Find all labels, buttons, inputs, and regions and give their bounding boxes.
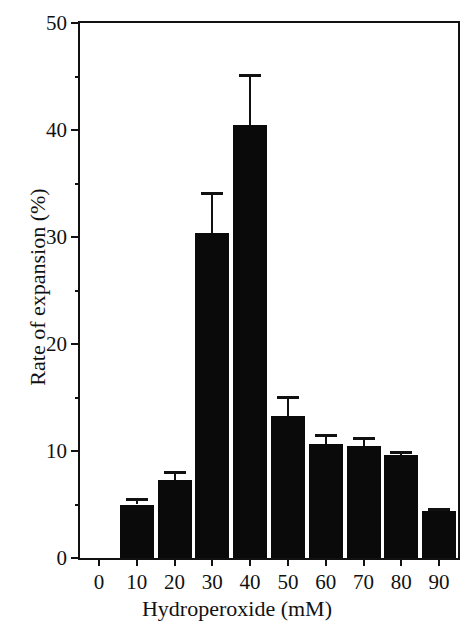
error-bar-cap (315, 434, 337, 437)
x-axis-tick (287, 558, 289, 566)
y-axis-tick-minor (75, 183, 80, 185)
bar-group (309, 23, 343, 558)
bar-group (195, 23, 229, 558)
x-axis-tick-label: 20 (164, 572, 185, 593)
x-axis-tick (211, 558, 213, 566)
bar (158, 480, 192, 558)
y-axis-title: Rate of expansion (%) (27, 127, 49, 447)
x-axis-tick-label: 70 (353, 572, 374, 593)
bar (195, 233, 229, 558)
x-axis-tick (136, 558, 138, 566)
x-axis-tick-label: 10 (126, 572, 147, 593)
error-bar-cap (239, 74, 261, 77)
x-axis-tick (249, 558, 251, 566)
y-axis-tick-minor (75, 290, 80, 292)
bar (120, 505, 154, 559)
error-bar-cap (201, 192, 223, 195)
bar-group (347, 23, 381, 558)
error-bar-cap (390, 451, 412, 454)
x-axis-tick (325, 558, 327, 566)
x-axis-tick (174, 558, 176, 566)
x-axis-tick (438, 558, 440, 566)
error-bar-cap (164, 471, 186, 474)
bar-group (233, 23, 267, 558)
x-axis-tick-label: 50 (277, 572, 298, 593)
bar (422, 511, 456, 558)
y-axis-tick-minor (75, 76, 80, 78)
bar (347, 446, 381, 558)
x-axis-tick-label: 0 (94, 572, 105, 593)
chart-figure: 010203040500102030405060708090 Hydropero… (0, 0, 474, 638)
x-axis-tick (400, 558, 402, 566)
y-axis-tick-label: 0 (57, 548, 68, 569)
error-bar-cap (353, 437, 375, 440)
x-axis-tick-label: 80 (391, 572, 412, 593)
y-axis-tick-major (71, 343, 80, 345)
x-axis-tick-label: 60 (315, 572, 336, 593)
y-axis-tick-major (71, 557, 80, 559)
x-axis-tick-label: 40 (240, 572, 261, 593)
bar-group (120, 23, 154, 558)
error-bar-stem (249, 74, 251, 124)
error-bar-cap (277, 396, 299, 399)
x-axis-title: Hydroperoxide (mM) (0, 598, 474, 620)
y-axis-tick-major (71, 129, 80, 131)
bar-group (384, 23, 418, 558)
bar (309, 444, 343, 558)
error-bar-cap (428, 508, 450, 511)
bar (233, 125, 267, 558)
y-axis-tick-major (71, 450, 80, 452)
bar (271, 416, 305, 558)
x-axis-tick-label: 90 (429, 572, 450, 593)
x-axis-tick (363, 558, 365, 566)
y-axis-tick-major (71, 236, 80, 238)
bar-group (158, 23, 192, 558)
bar-group (422, 23, 456, 558)
error-bar-cap (126, 498, 148, 501)
plot-area: 010203040500102030405060708090 (78, 21, 460, 560)
y-axis-tick-label: 50 (46, 13, 67, 34)
y-axis-tick-minor (75, 504, 80, 506)
x-axis-tick-label: 30 (202, 572, 223, 593)
error-bar-stem (211, 192, 213, 233)
y-axis-tick-minor (75, 397, 80, 399)
y-axis-tick-major (71, 22, 80, 24)
bar-group (271, 23, 305, 558)
bar (384, 455, 418, 558)
y-axis-tick-label: 40 (46, 120, 67, 141)
x-axis-tick (98, 558, 100, 566)
y-axis-tick-label: 10 (46, 441, 67, 462)
